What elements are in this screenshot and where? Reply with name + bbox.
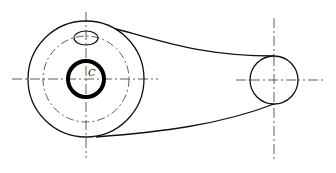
arm-upper-edge [116,29,274,56]
crank-drawing: C [0,0,336,173]
arm-lower-edge [96,104,274,137]
center-label: C [88,67,96,78]
